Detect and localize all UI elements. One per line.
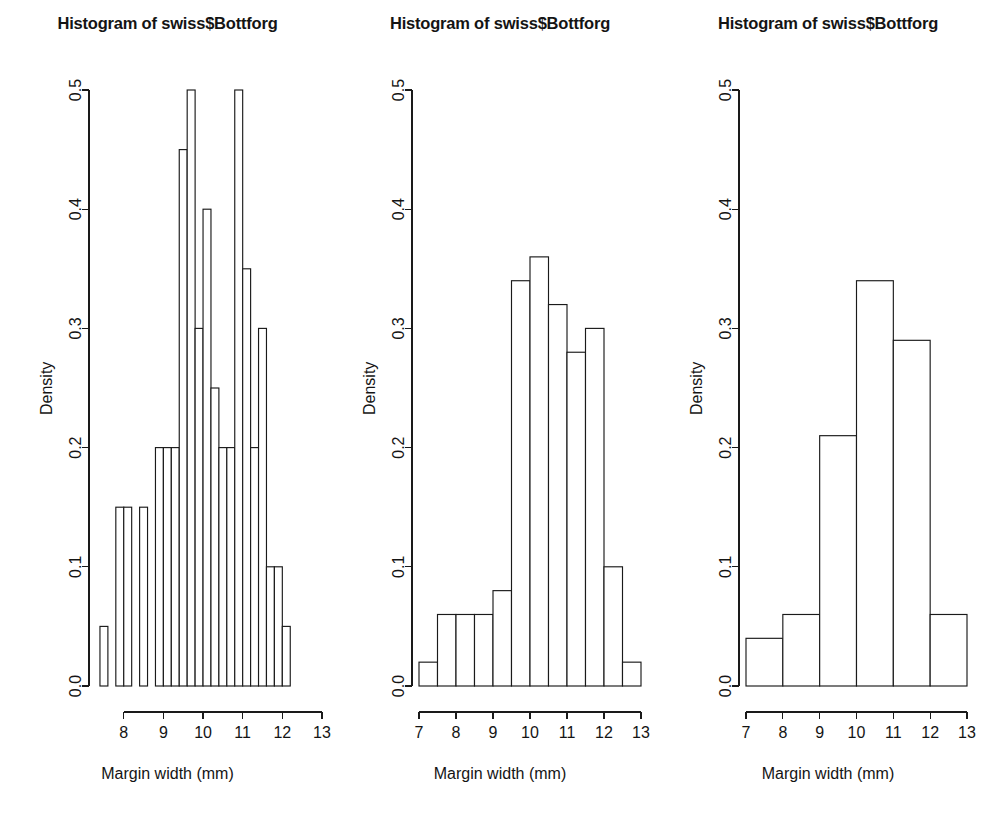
y-axis-tick-label: 0.3 [67,317,84,339]
histogram-bar [155,448,163,686]
histogram-bar [163,448,171,686]
histogram-bar [203,209,211,686]
histogram-bar [274,567,282,686]
histogram-bar [530,257,549,686]
y-axis-tick-label: 0.3 [717,317,734,339]
histogram-bar [623,662,642,686]
x-axis-tick-label: 11 [885,724,902,741]
histogram-bar [893,340,930,686]
y-axis-tick-label: 0.5 [390,79,407,101]
panel-2-y-axis-label: Density [361,361,379,414]
panel-2-plot: 0.00.10.20.30.40.578910111213 [335,0,665,760]
x-axis-tick-label: 10 [848,724,866,741]
x-axis-tick-label: 8 [452,724,461,741]
histogram-bar [930,614,967,686]
x-axis-tick-label: 11 [559,724,576,741]
histogram-bar [266,567,274,686]
histogram-bar [219,448,227,686]
histogram-bar [282,626,290,686]
histogram-bar [187,90,195,686]
histogram-bar [251,448,259,686]
panel-3-x-axis-label: Margin width (mm) [665,765,991,783]
panel-2-x-axis-label: Margin width (mm) [335,765,665,783]
y-axis-tick-label: 0.5 [717,79,734,101]
histogram-bar [195,328,203,686]
y-axis-tick-label: 0.4 [390,198,407,220]
panel-1-x-axis-label: Margin width (mm) [0,765,335,783]
x-axis-tick-label: 12 [273,724,291,741]
x-axis-tick-label: 10 [521,724,539,741]
x-axis: 78910111213 [415,712,650,741]
histogram-panel-1: Histogram of swiss$Bottforg 0.00.10.20.3… [0,0,335,818]
histogram-bar [179,150,187,686]
y-axis-tick-label: 0.0 [67,675,84,697]
y-axis-tick-label: 0.2 [67,436,84,458]
histogram-bar [456,614,475,686]
histogram-bar [140,507,148,686]
histogram-bar [235,90,243,686]
histogram-bar [820,436,857,686]
y-axis-tick-label: 0.2 [717,436,734,458]
x-axis-tick-label: 9 [159,724,168,741]
panel-1-y-axis-label: Density [38,361,56,414]
bars-group [746,281,967,686]
x-axis-tick-label: 11 [234,724,251,741]
y-axis: 0.00.10.20.30.40.5 [390,79,412,697]
x-axis-tick-label: 12 [595,724,613,741]
y-axis-tick-label: 0.1 [717,556,734,578]
x-axis-tick-label: 9 [489,724,498,741]
histogram-bar [567,352,586,686]
y-axis: 0.00.10.20.30.40.5 [717,79,739,697]
panel-3-plot: 0.00.10.20.30.40.578910111213 [665,0,991,760]
x-axis: 78910111213 [742,712,976,741]
x-axis-tick-label: 8 [119,724,128,741]
histogram-bar [746,638,783,686]
histogram-bar [243,269,251,686]
histogram-bar [493,591,512,686]
histogram-bar [857,281,894,686]
histogram-bar [783,614,820,686]
y-axis-tick-label: 0.5 [67,79,84,101]
histogram-bar [586,328,605,686]
histogram-bar [438,614,457,686]
x-axis-tick-label: 13 [632,724,650,741]
bars-group [100,90,290,686]
x-axis-tick-label: 10 [194,724,212,741]
y-axis-tick-label: 0.2 [390,436,407,458]
x-axis-tick-label: 9 [815,724,824,741]
x-axis-tick-label: 12 [921,724,939,741]
histogram-bar [211,388,219,686]
histogram-bar [475,614,494,686]
y-axis-tick-label: 0.0 [390,675,407,697]
x-axis-tick-label: 7 [742,724,751,741]
bars-group [419,257,641,686]
y-axis-tick-label: 0.4 [717,198,734,220]
x-axis-tick-label: 13 [313,724,331,741]
x-axis-tick-label: 13 [958,724,976,741]
histogram-panel-3: Histogram of swiss$Bottforg 0.00.10.20.3… [665,0,991,818]
x-axis-tick-label: 8 [778,724,787,741]
histogram-bar [512,281,531,686]
y-axis-tick-label: 0.4 [67,198,84,220]
histogram-bar [549,305,568,686]
y-axis-tick-label: 0.3 [390,317,407,339]
x-axis: 8910111213 [119,712,331,741]
histogram-panel-2: Histogram of swiss$Bottforg 0.00.10.20.3… [335,0,665,818]
histogram-figure: Histogram of swiss$Bottforg 0.00.10.20.3… [0,0,991,818]
histogram-bar [227,448,235,686]
histogram-bar [604,567,623,686]
histogram-bar [171,448,179,686]
histogram-bar [124,507,132,686]
y-axis-tick-label: 0.0 [717,675,734,697]
histogram-bar [116,507,124,686]
histogram-bar [259,328,267,686]
panel-3-y-axis-label: Density [688,361,706,414]
histogram-bar [100,626,108,686]
y-axis: 0.00.10.20.30.40.5 [67,79,89,697]
x-axis-tick-label: 7 [415,724,424,741]
y-axis-tick-label: 0.1 [67,556,84,578]
histogram-bar [419,662,438,686]
y-axis-tick-label: 0.1 [390,556,407,578]
